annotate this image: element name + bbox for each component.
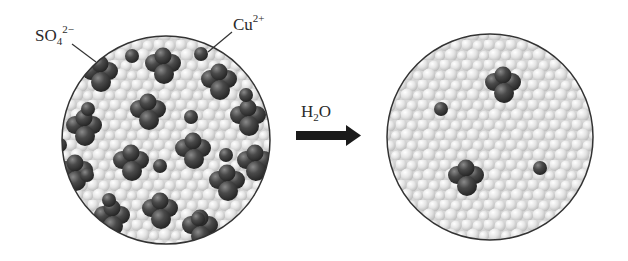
copper-ion-label: Cu2+ [233,13,265,33]
copper-leader-line [208,32,232,52]
water-label: H2O [301,103,331,123]
sulfate-ion-label: SO42− [35,24,74,47]
reaction-arrow [296,125,361,146]
dissolution-diagram: SO42− Cu2+ H2O [0,0,628,261]
sulfate-leader-line [72,44,96,62]
left-panel-solid [53,36,273,246]
right-panel-solution [387,34,593,240]
diagram-graphics [0,0,628,261]
